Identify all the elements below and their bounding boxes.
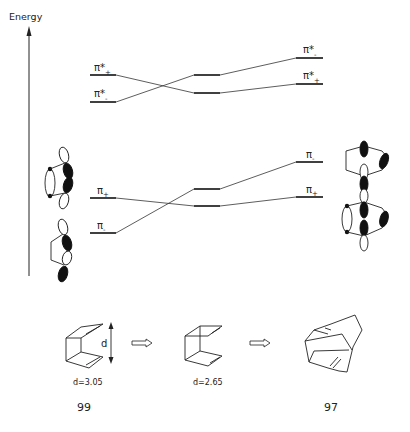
label-left-pi-star-minus: π*- <box>94 88 108 103</box>
distance-value-intermediate: d=2.65 <box>193 378 223 387</box>
pi-star-levels: π*+ π*- π*- π*+ <box>90 44 323 103</box>
orbital-left-pi-plus-icon <box>45 146 74 210</box>
orbital-right-pi-plus-icon <box>342 189 390 251</box>
structure-intermediate-icon <box>185 326 222 366</box>
axis-arrow-icon <box>27 26 32 36</box>
reaction-arrow-icon <box>250 339 270 347</box>
label-right-pi-plus: π+ <box>306 184 318 198</box>
structure-99-icon <box>66 324 103 368</box>
structure-97-icon <box>305 315 362 372</box>
compound-label-99: 99 <box>77 401 91 414</box>
label-right-pi-minus: π- <box>306 149 315 163</box>
energy-axis: Energy <box>9 11 43 276</box>
distance-value-99: d=3.05 <box>73 378 103 387</box>
distance-label: d <box>101 338 107 349</box>
label-right-pi-star-minus: π*- <box>303 44 317 59</box>
orbital-right-pi-minus-icon <box>346 141 390 192</box>
pi-levels: π+ π- π- π+ <box>90 149 323 234</box>
orbital-correlation-diagram: Energy π*+ π*- π*- π*+ π+ π- <box>0 0 410 432</box>
compound-label-97: 97 <box>324 401 338 414</box>
distance-arrow-icon <box>109 322 114 364</box>
energy-axis-label: Energy <box>9 11 43 22</box>
label-left-pi-plus: π+ <box>97 185 109 199</box>
label-left-pi-minus: π- <box>97 220 106 234</box>
label-right-pi-star-plus: π*+ <box>303 70 320 85</box>
orbital-left-pi-minus-icon <box>51 218 73 283</box>
reaction-arrow-icon <box>132 339 152 347</box>
